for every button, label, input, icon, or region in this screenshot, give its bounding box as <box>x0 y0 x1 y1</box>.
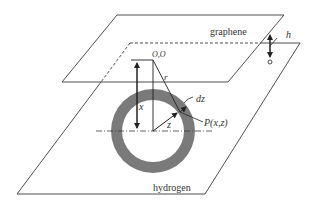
h-separation-arrow <box>268 35 277 64</box>
hydrogen-label: hydrogen <box>153 182 191 193</box>
h-label: h <box>286 29 291 40</box>
origin-label: O,O <box>152 50 166 59</box>
x-label: x <box>138 101 144 112</box>
graphene-label: graphene <box>210 26 247 37</box>
z-label: z <box>166 119 171 130</box>
r-label: r <box>164 72 168 82</box>
point-p-label: P(x,z) <box>203 117 228 129</box>
graphene-plane <box>62 15 284 82</box>
dz-label: dz <box>196 93 205 104</box>
graphene-hydrogen-geometry-diagram: graphene hydrogen h O,O r x z dz P(x,z) <box>0 0 314 206</box>
